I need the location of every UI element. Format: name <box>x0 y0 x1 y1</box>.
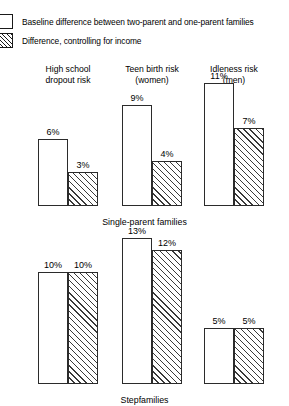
bar-group-teen-birth: 9% 4% <box>122 56 182 206</box>
bar-item-controlled: 7% <box>234 128 264 206</box>
bar-item-controlled: 12% <box>152 250 182 384</box>
open-square-swatch-icon <box>0 14 13 29</box>
bar-value-controlled: 4% <box>152 149 182 160</box>
bar-baseline <box>204 83 234 206</box>
panel-stepfamilies: 10% 10% 13% 12% 5% <box>0 258 289 406</box>
bar-item-controlled: 5% <box>234 328 264 384</box>
bar-controlled <box>234 328 264 384</box>
bar-value-controlled: 5% <box>234 316 264 327</box>
legend-item-controlled: Difference, controlling for income <box>0 31 289 50</box>
panel-single-parent-families: 6% 3% 9% 4% 11% <box>0 100 289 228</box>
hatched-square-swatch-icon <box>0 33 13 48</box>
bar-group-idleness: 11% 7% <box>204 56 264 206</box>
legend-label-baseline: Baseline difference between two-parent a… <box>22 17 254 27</box>
bar-value-controlled: 3% <box>68 160 98 171</box>
bar-baseline <box>122 238 152 384</box>
bar-baseline <box>38 272 68 384</box>
bar-item-controlled: 4% <box>152 161 182 206</box>
bar-item-baseline: 5% <box>204 328 234 384</box>
bar-controlled <box>68 172 98 206</box>
bar-value-controlled: 10% <box>68 260 98 271</box>
bar-item-baseline: 10% <box>38 272 68 384</box>
bar-item-baseline: 13% <box>122 238 152 384</box>
bar-value-baseline: 6% <box>38 127 68 138</box>
bar-group-teen-birth: 13% 12% <box>122 234 182 384</box>
bar-controlled <box>68 272 98 384</box>
bar-controlled <box>152 161 182 206</box>
bar-baseline <box>38 139 68 206</box>
bar-group-dropout: 10% 10% <box>38 234 98 384</box>
bar-item-baseline: 9% <box>122 105 152 206</box>
bar-controlled <box>234 128 264 206</box>
bar-baseline <box>122 105 152 206</box>
panel-label-stepfamilies: Stepfamilies <box>0 395 289 406</box>
bar-controlled <box>152 250 182 384</box>
bar-group-idleness: 5% 5% <box>204 234 264 384</box>
bar-value-baseline: 10% <box>38 260 68 271</box>
bar-item-baseline: 6% <box>38 139 68 206</box>
legend: Baseline difference between two-parent a… <box>0 12 289 50</box>
bar-item-baseline: 11% <box>204 83 234 206</box>
bar-value-controlled: 12% <box>152 238 182 249</box>
bar-item-controlled: 3% <box>68 172 98 206</box>
bar-value-controlled: 7% <box>234 116 264 127</box>
bar-value-baseline: 13% <box>122 226 152 237</box>
bar-item-controlled: 10% <box>68 272 98 384</box>
legend-item-baseline: Baseline difference between two-parent a… <box>0 12 289 31</box>
bar-value-baseline: 9% <box>122 93 152 104</box>
bar-value-baseline: 11% <box>204 71 234 82</box>
bar-value-baseline: 5% <box>204 316 234 327</box>
legend-label-controlled: Difference, controlling for income <box>22 36 141 46</box>
bar-baseline <box>204 328 234 384</box>
bar-group-dropout: 6% 3% <box>38 56 98 206</box>
